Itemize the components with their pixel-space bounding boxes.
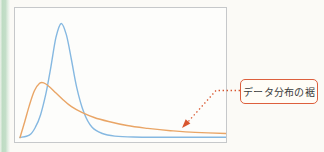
plot-frame (14, 7, 227, 143)
annotation-label: データ分布の裾 (243, 84, 315, 99)
curve-blue (20, 23, 226, 137)
page-edge-strip (0, 0, 10, 152)
curve-orange (20, 82, 226, 137)
annotation-callout: データ分布の裾 (240, 79, 318, 104)
distribution-curves (15, 8, 226, 142)
